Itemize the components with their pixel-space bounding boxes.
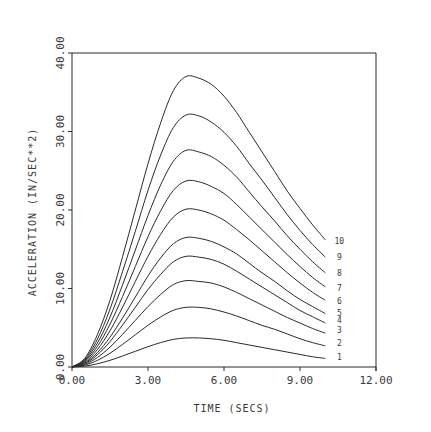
curve-label-8: 8 (337, 269, 342, 278)
curve-label-9: 9 (337, 253, 342, 262)
curve-label-5: 5 (337, 309, 342, 318)
y-tick-label: 10.00 (54, 272, 67, 305)
curve-label-3: 3 (337, 326, 342, 335)
x-tick-label: 0.00 (59, 374, 86, 387)
curve-label-7: 7 (337, 284, 342, 293)
x-tick-label: 9.00 (287, 374, 314, 387)
x-axis-label: TIME (SECS) (193, 403, 270, 414)
y-axis-label: ACCELERATION (IN/SEC**2) (27, 128, 38, 297)
y-tick-label: 40.00 (54, 36, 67, 69)
curves (72, 76, 325, 367)
chart: 0.0010.0020.0030.0040.000.003.006.009.00… (0, 0, 431, 432)
x-tick-label: 6.00 (211, 374, 238, 387)
curve-7 (72, 180, 325, 367)
curve-label-2: 2 (337, 339, 342, 348)
x-tick-label: 12.00 (359, 374, 392, 387)
chart-canvas: 0.0010.0020.0030.0040.000.003.006.009.00… (0, 0, 431, 432)
y-tick-label: 30.00 (54, 115, 67, 148)
curve-labels: 12345678910 (335, 237, 345, 361)
curve-label-10: 10 (335, 237, 345, 246)
curve-label-6: 6 (337, 297, 342, 306)
x-tick-label: 3.00 (135, 374, 162, 387)
curve-6 (72, 209, 325, 367)
curve-label-1: 1 (337, 353, 342, 362)
y-tick-label: 20.00 (54, 193, 67, 226)
